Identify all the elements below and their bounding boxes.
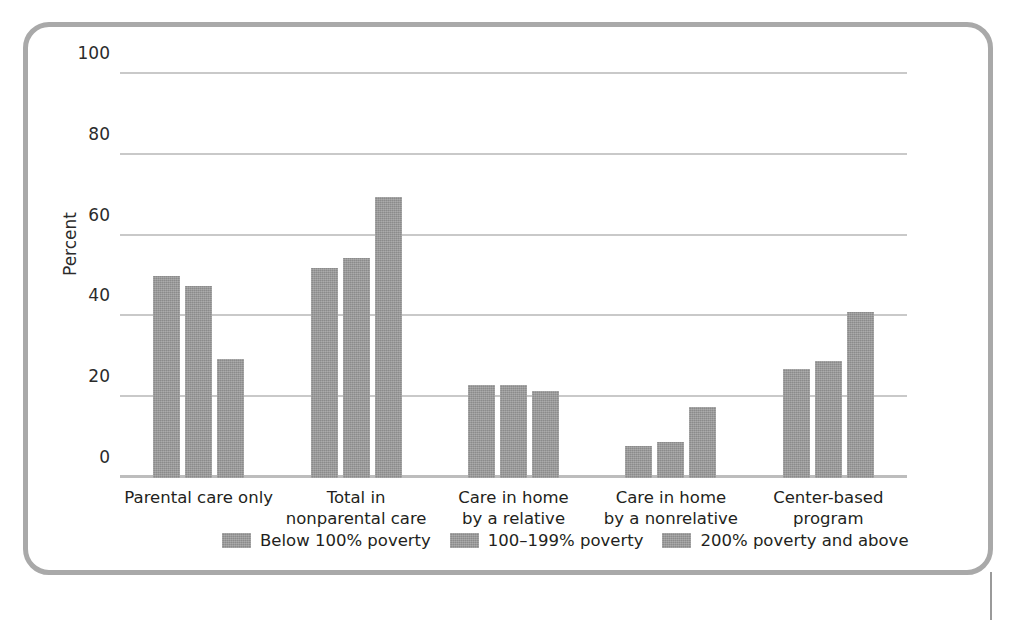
bar[interactable] [847, 312, 874, 478]
bar-group [468, 74, 559, 478]
bar[interactable] [783, 369, 810, 478]
legend-swatch-icon [662, 533, 691, 548]
bar[interactable] [217, 359, 244, 478]
legend-swatch-icon [222, 533, 251, 548]
bar[interactable] [468, 385, 495, 478]
bar[interactable] [311, 268, 338, 478]
bar[interactable] [500, 385, 527, 478]
bar[interactable] [815, 361, 842, 478]
legend-label: Below 100% poverty [260, 531, 431, 550]
bar-group [153, 74, 244, 478]
legend-label: 200% poverty and above [700, 531, 908, 550]
y-tick-label-60: 60 [64, 205, 110, 225]
y-tick-label-80: 80 [64, 124, 110, 144]
bar[interactable] [153, 276, 180, 478]
bar[interactable] [657, 442, 684, 478]
chart-legend: Below 100% poverty100–199% poverty200% p… [222, 531, 909, 550]
plot-area: 020406080100 [120, 74, 907, 478]
legend-item[interactable]: Below 100% poverty [222, 531, 431, 550]
y-tick-label-40: 40 [64, 285, 110, 305]
bar-group [783, 74, 874, 478]
bar-group [625, 74, 716, 478]
legend-item[interactable]: 200% poverty and above [662, 531, 908, 550]
bar[interactable] [532, 391, 559, 478]
y-tick-label-100: 100 [64, 43, 110, 63]
y-tick-label-0: 0 [64, 447, 110, 467]
bar[interactable] [185, 286, 212, 478]
bar[interactable] [343, 258, 370, 478]
bar[interactable] [689, 407, 716, 478]
bar[interactable] [625, 446, 652, 478]
legend-item[interactable]: 100–199% poverty [450, 531, 644, 550]
frame-corner-tick [990, 572, 992, 620]
legend-swatch-icon [450, 533, 479, 548]
bar-group [311, 74, 402, 478]
legend-label: 100–199% poverty [488, 531, 644, 550]
bar[interactable] [375, 197, 402, 478]
y-tick-label-20: 20 [64, 366, 110, 386]
x-tick-label: Center-based program [725, 487, 932, 529]
